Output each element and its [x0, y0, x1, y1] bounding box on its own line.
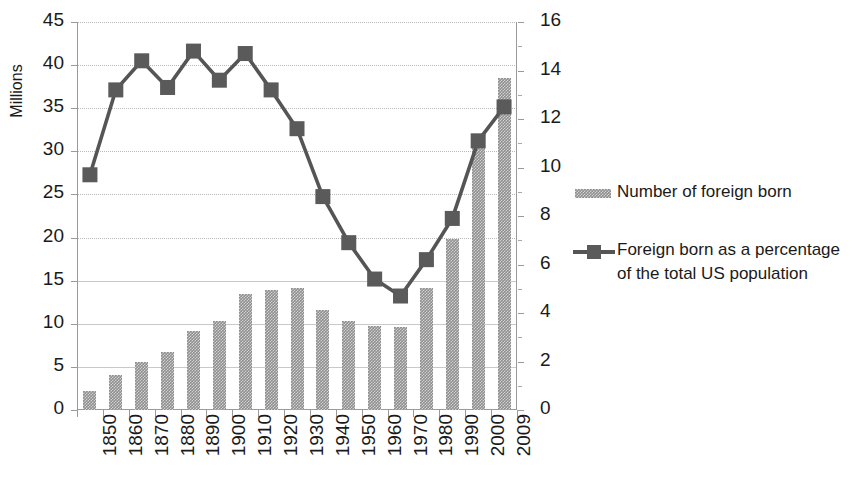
x-axis-tick-label: 1990 [461, 414, 483, 484]
y-axis-right-tick [518, 216, 524, 217]
line-marker [341, 235, 356, 250]
y-axis-right-tick [518, 362, 524, 363]
line-marker [82, 167, 97, 182]
y-axis-right-tick-label: 4 [540, 300, 570, 322]
x-axis-tick-label: 1950 [358, 414, 380, 484]
y-axis-right-tick [518, 313, 524, 314]
x-axis-tick-label: 2009 [513, 414, 535, 484]
line-marker [445, 211, 460, 226]
x-axis-tick-label: 1850 [99, 414, 121, 484]
x-axis-tick-label: 1960 [384, 414, 406, 484]
line-marker [238, 46, 253, 61]
line-marker [367, 272, 382, 287]
x-axis-tick-label: 1880 [177, 414, 199, 484]
square-marker-icon [587, 245, 601, 259]
line-marker [393, 289, 408, 304]
x-axis-tick-label: 1940 [332, 414, 354, 484]
line-marker [471, 133, 486, 148]
y-axis-left-tick-label: 40 [22, 52, 64, 74]
bar-swatch-icon [575, 189, 611, 198]
line-marker [212, 73, 227, 88]
chart-container: Millions 051015202530354045 024681012141… [0, 0, 866, 489]
y-axis-right-minor-tick [518, 95, 522, 96]
y-axis-left-tick-label: 10 [22, 311, 64, 333]
legend-key-bar [573, 182, 617, 204]
line-marker [108, 82, 123, 97]
y-axis-right-minor-tick [518, 337, 522, 338]
y-axis-right-tick-label: 10 [540, 155, 570, 177]
line-marker [160, 80, 175, 95]
y-axis-right-tick [518, 22, 524, 23]
line-marker [419, 252, 434, 267]
chart-legend: Number of foreign born Foreign born as a… [573, 180, 863, 320]
y-axis-right-tick-label: 8 [540, 203, 570, 225]
line-marker [264, 82, 279, 97]
line-marker [134, 53, 149, 68]
line-marker [315, 189, 330, 204]
y-axis-right-tick [518, 71, 524, 72]
y-axis-right-tick-label: 2 [540, 349, 570, 371]
x-axis-tick [77, 410, 78, 417]
line-marker [290, 121, 305, 136]
x-axis-tick-label: 1910 [254, 414, 276, 484]
y-axis-left-tick-label: 45 [22, 9, 64, 31]
y-axis-right-minor-tick [518, 46, 522, 47]
line-marker [497, 99, 512, 114]
legend-key-line [573, 240, 617, 262]
x-axis-tick-label: 1870 [151, 414, 173, 484]
line-series [77, 22, 517, 410]
line-path [90, 51, 504, 296]
y-axis-right-minor-tick [518, 289, 522, 290]
y-axis-left-tick-label: 25 [22, 181, 64, 203]
legend-item-bars: Number of foreign born [573, 180, 863, 204]
y-axis-left-tick-label: 20 [22, 225, 64, 247]
y-axis-right-tick-label: 6 [540, 252, 570, 274]
y-axis-right-tick [518, 410, 524, 411]
y-axis-right-minor-tick [518, 240, 522, 241]
y-axis-left-tick-label: 0 [22, 397, 64, 419]
y-axis-right-tick-label: 12 [540, 106, 570, 128]
y-axis-right-minor-tick [518, 386, 522, 387]
x-axis-tick-label: 1860 [125, 414, 147, 484]
legend-label-line: Foreign born as a percentage of the tota… [617, 238, 857, 286]
y-axis-left-tick-label: 30 [22, 138, 64, 160]
line-marker [186, 44, 201, 59]
y-axis-right-minor-tick [518, 143, 522, 144]
x-axis-tick-label: 2000 [487, 414, 509, 484]
x-axis-tick-label: 1930 [306, 414, 328, 484]
x-axis-tick-label: 1970 [410, 414, 432, 484]
y-axis-right-tick-label: 0 [540, 397, 570, 419]
y-axis-right-minor-tick [518, 192, 522, 193]
y-axis-right-tick [518, 168, 524, 169]
legend-label-bars: Number of foreign born [617, 180, 792, 204]
x-axis-labels: 1850186018701880189019001910192019301940… [77, 418, 517, 488]
y-axis-right-tick [518, 265, 524, 266]
x-axis-tick-label: 1900 [228, 414, 250, 484]
x-axis-tick-label: 1980 [435, 414, 457, 484]
x-axis-tick-label: 1890 [202, 414, 224, 484]
plot-area [77, 22, 517, 410]
y-axis-right-tick-label: 16 [540, 9, 570, 31]
y-axis-left-tick-label: 5 [22, 354, 64, 376]
x-axis-tick-label: 1920 [280, 414, 302, 484]
y-axis-left-tick-label: 15 [22, 268, 64, 290]
legend-item-line: Foreign born as a percentage of the tota… [573, 238, 863, 286]
y-axis-right-tick-label: 14 [540, 58, 570, 80]
y-axis-left-tick-label: 35 [22, 95, 64, 117]
y-axis-right-tick [518, 119, 524, 120]
